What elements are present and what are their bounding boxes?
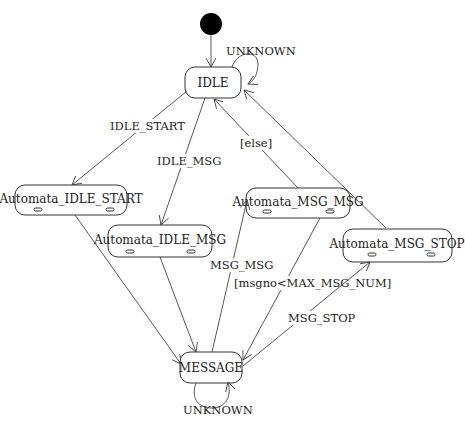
state-automata-idle-msg-label: Automata_IDLE_MSG: [93, 233, 226, 247]
state-idle-label: IDLE: [197, 76, 228, 90]
label-msg-stop: MSG_STOP: [288, 311, 356, 325]
state-automata-idle-msg[interactable]: Automata_IDLE_MSG: [93, 225, 226, 257]
state-automata-msg-msg[interactable]: Automata_MSG_MSG: [231, 188, 363, 218]
state-idle[interactable]: IDLE: [185, 67, 241, 98]
label-message-unknown: UNKNOWN: [183, 403, 253, 417]
exit-port-icon: [427, 253, 435, 256]
exit-port-icon: [326, 210, 334, 213]
state-diagram: UNKNOWN IDLE IDLE_START IDLE_MSG [else] …: [0, 0, 465, 430]
state-message-label: MESSAGE: [179, 361, 243, 375]
exit-port-icon: [106, 208, 114, 211]
label-idle-msg: IDLE_MSG: [157, 154, 221, 168]
state-message[interactable]: MESSAGE: [179, 352, 243, 383]
label-else: [else]: [240, 136, 272, 150]
state-automata-msg-stop-label: Automata_MSG_STOP: [328, 237, 464, 251]
state-automata-idle-start-label: Automata_IDLE_START: [0, 192, 143, 206]
label-idle-unknown: UNKNOWN: [226, 44, 296, 58]
entry-port-icon: [368, 253, 376, 256]
state-automata-msg-stop[interactable]: Automata_MSG_STOP: [328, 229, 464, 262]
exit-port-icon: [187, 250, 195, 253]
entry-port-icon: [263, 210, 271, 213]
state-automata-idle-start[interactable]: Automata_IDLE_START: [0, 185, 143, 215]
edge-idle-to-idle-start: [72, 91, 187, 185]
label-guard: [msgno<MAX_MSG_NUM]: [234, 276, 391, 290]
edge-idle-msg-to-message: [160, 257, 196, 352]
initial-state-dot: [200, 13, 222, 35]
entry-port-icon: [126, 250, 134, 253]
label-msg-msg: MSG_MSG: [210, 258, 273, 272]
label-idle-start: IDLE_START: [110, 119, 185, 133]
state-automata-msg-msg-label: Automata_MSG_MSG: [231, 195, 363, 209]
entry-port-icon: [34, 208, 42, 211]
